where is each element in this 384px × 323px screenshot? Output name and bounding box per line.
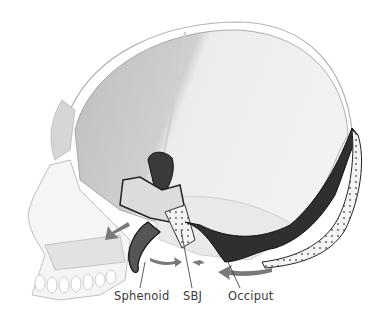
sbj-flexion-arrow-left <box>150 257 182 267</box>
occiput-arrow <box>218 265 272 280</box>
skull-illustration <box>0 0 384 323</box>
occiput-label: Occiput <box>228 289 273 303</box>
sphenoid-label: Sphenoid <box>114 289 169 303</box>
nasal-bone <box>51 100 75 160</box>
skull-diagram: Sphenoid SBJ Occiput <box>0 0 384 323</box>
sbj-label: SBJ <box>183 289 202 303</box>
sphenoid-leader <box>140 262 145 288</box>
sbj-flexion-arrow-right <box>192 260 205 266</box>
